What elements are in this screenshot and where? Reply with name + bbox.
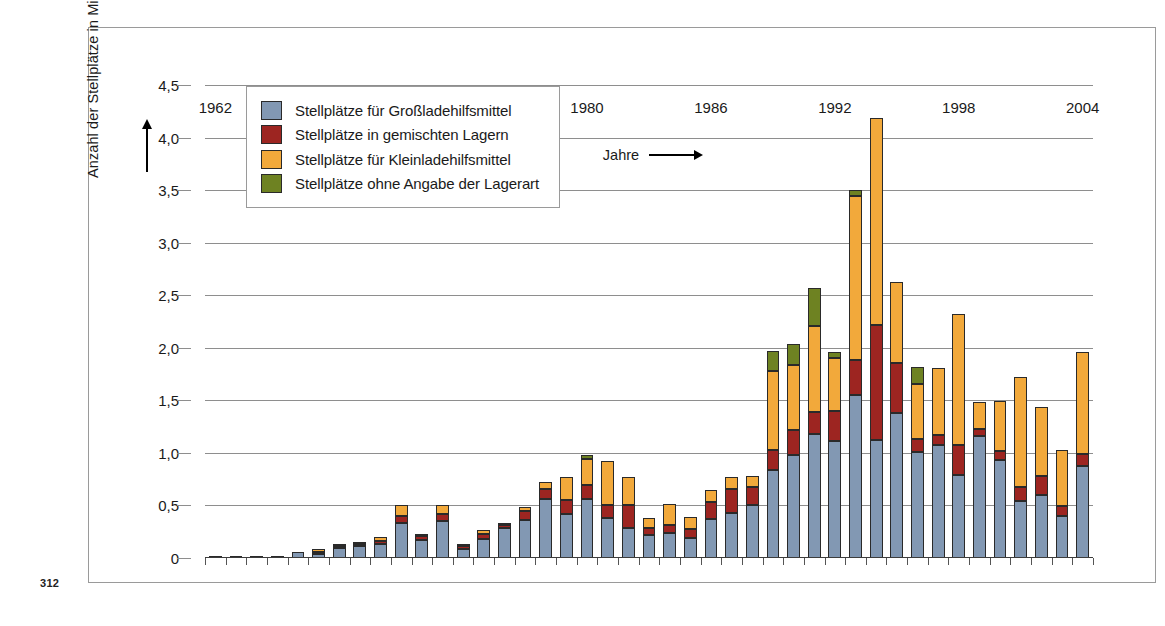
bar-segment xyxy=(767,371,780,449)
x-tick-mark xyxy=(618,558,619,565)
bar-segment xyxy=(1056,450,1069,506)
bar-segment xyxy=(787,365,800,430)
x-tick-mark xyxy=(515,558,516,565)
bar-1980 xyxy=(581,454,594,558)
x-tick-mark xyxy=(1072,558,1073,565)
x-tick-mark xyxy=(412,558,413,565)
x-tick-mark xyxy=(948,558,949,565)
bar-segment xyxy=(1014,487,1027,502)
bar-segment xyxy=(973,436,986,558)
bar-1974 xyxy=(457,544,470,558)
bar-segment xyxy=(684,529,697,538)
bar-segment xyxy=(1076,352,1089,454)
y-tick-label: 3,0 xyxy=(127,234,179,251)
bar-segment xyxy=(705,519,718,558)
bar-segment xyxy=(890,363,903,413)
x-axis-line xyxy=(205,557,1093,558)
legend-label: Stellplätze in gemischten Lagern xyxy=(295,126,509,143)
x-tick-mark xyxy=(990,558,991,565)
plot-wrapper: Anzahl der Stellplätze in Mio. 00,51,01,… xyxy=(89,28,1155,582)
bar-segment xyxy=(684,538,697,558)
bar-segment xyxy=(1014,377,1027,486)
bar-1978 xyxy=(539,482,552,558)
legend-item: Stellplätze für Großladehilfsmittel xyxy=(261,98,539,123)
bar-segment xyxy=(849,190,862,197)
y-tick-mark xyxy=(177,138,191,139)
y-tick-mark xyxy=(177,295,191,296)
y-tick-label: 1,0 xyxy=(127,444,179,461)
bar-segment xyxy=(581,459,594,485)
bar-1995 xyxy=(890,282,903,558)
bar-segment xyxy=(994,460,1007,558)
bar-segment xyxy=(849,196,862,360)
x-tick-mark xyxy=(845,558,846,565)
bar-segment xyxy=(477,539,490,558)
bar-segment xyxy=(787,430,800,455)
bar-segment xyxy=(746,476,759,487)
x-axis-title-text: Jahre xyxy=(603,147,639,163)
bar-segment xyxy=(808,288,821,326)
bar-segment xyxy=(601,461,614,505)
y-tick-mark xyxy=(177,190,191,191)
bar-segment xyxy=(787,344,800,365)
x-tick-mark xyxy=(659,558,660,565)
bar-segment xyxy=(828,441,841,558)
bar-segment xyxy=(725,489,738,514)
bar-segment xyxy=(767,470,780,558)
x-tick-mark xyxy=(329,558,330,565)
x-tick-mark xyxy=(639,558,640,565)
x-tick-mark xyxy=(288,558,289,565)
bar-1983 xyxy=(643,518,656,558)
x-tick-mark xyxy=(577,558,578,565)
bar-segment xyxy=(498,528,511,558)
legend: Stellplätze für GroßladehilfsmittelStell… xyxy=(246,86,560,208)
y-tick-label: 1,5 xyxy=(127,392,179,409)
bar-segment xyxy=(725,477,738,489)
bar-segment xyxy=(581,485,594,499)
bar-1986 xyxy=(705,490,718,558)
y-tick-mark xyxy=(177,558,191,559)
page-number: 312 xyxy=(40,577,59,589)
y-tick-label: 2,5 xyxy=(127,287,179,304)
x-tick-mark xyxy=(535,558,536,565)
x-tick-mark xyxy=(226,558,227,565)
bar-segment xyxy=(560,500,573,514)
bar-segment xyxy=(787,455,800,558)
x-tick-mark xyxy=(1010,558,1011,565)
bar-2003 xyxy=(1056,450,1069,558)
bar-1975 xyxy=(477,530,490,558)
bar-1994 xyxy=(870,118,883,558)
y-tick-label: 0 xyxy=(127,550,179,567)
y-tick-label: 3,5 xyxy=(127,182,179,199)
legend-swatch-icon xyxy=(261,101,282,120)
bar-segment xyxy=(560,514,573,558)
x-tick-mark xyxy=(370,558,371,565)
y-tick-label: 4,0 xyxy=(127,129,179,146)
x-tick-mark xyxy=(783,558,784,565)
y-tick-label: 4,5 xyxy=(127,77,179,94)
y-tick-label: 2,0 xyxy=(127,339,179,356)
bar-segment xyxy=(725,513,738,558)
bar-segment xyxy=(911,384,924,440)
bar-segment xyxy=(849,395,862,558)
bar-segment xyxy=(911,452,924,558)
bar-1977 xyxy=(519,507,532,558)
bar-segment xyxy=(994,401,1007,451)
x-tick-mark xyxy=(701,558,702,565)
bar-1990 xyxy=(787,344,800,558)
bar-segment xyxy=(1056,506,1069,516)
bar-segment xyxy=(1056,516,1069,558)
bar-2001 xyxy=(1014,377,1027,558)
bar-segment xyxy=(952,475,965,558)
bar-1981 xyxy=(601,461,614,558)
bar-segment xyxy=(622,477,635,505)
legend-swatch-icon xyxy=(261,125,282,144)
x-tick-mark xyxy=(473,558,474,565)
bar-segment xyxy=(643,518,656,528)
x-tick-mark xyxy=(1031,558,1032,565)
bar-segment xyxy=(622,505,635,528)
bar-1982 xyxy=(622,477,635,558)
bar-segment xyxy=(519,511,532,520)
bar-segment xyxy=(601,518,614,558)
bar-1973 xyxy=(436,505,449,558)
